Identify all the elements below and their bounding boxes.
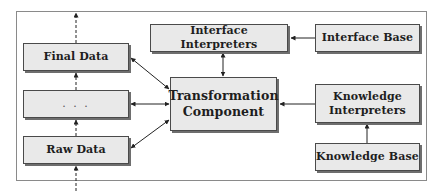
intermediate-data-box: . . .: [23, 90, 129, 118]
transformation-component-label-line1: Transformation: [168, 88, 278, 104]
transformation-component-box: Transformation Component: [170, 77, 277, 131]
final-data-box: Final Data: [23, 43, 129, 71]
knowledge-base-box: Knowledge Base: [315, 143, 420, 171]
final-data-label: Final Data: [44, 50, 109, 64]
raw-data-box: Raw Data: [23, 136, 129, 164]
interface-base-label: Interface Base: [322, 31, 413, 45]
knowledge-interpreters-label-line1: Knowledge: [333, 90, 402, 104]
knowledge-interpreters-box: Knowledge Interpreters: [315, 84, 420, 123]
knowledge-base-label: Knowledge Base: [316, 150, 419, 164]
knowledge-interpreters-label-line2: Interpreters: [329, 104, 406, 118]
intermediate-data-label: . . .: [62, 97, 89, 111]
interface-interpreters-box: Interface Interpreters: [150, 24, 288, 52]
transformation-component-label-line2: Component: [183, 104, 264, 120]
interface-base-box: Interface Base: [315, 24, 420, 52]
interface-interpreters-label: Interface Interpreters: [151, 24, 287, 52]
raw-data-label: Raw Data: [46, 143, 106, 157]
